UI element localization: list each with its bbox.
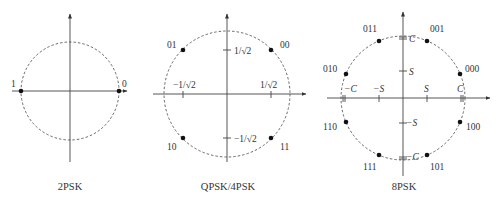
tick-label-x-neg: −1/√2 bbox=[173, 80, 196, 90]
tick-label-x-neg-s: −S bbox=[373, 84, 384, 94]
point-label-10: 10 bbox=[167, 142, 177, 152]
constellation-point-1 bbox=[19, 89, 24, 94]
tick-label-y-neg: −1/√2 bbox=[234, 134, 257, 144]
caption-2psk: 2PSK bbox=[58, 181, 83, 192]
constellation-point-110 bbox=[344, 120, 349, 125]
tick-label-x-c: C bbox=[457, 84, 464, 94]
point-label-010: 010 bbox=[323, 64, 338, 74]
constellation-point-010 bbox=[344, 72, 349, 77]
point-label-11: 11 bbox=[280, 142, 289, 152]
tick-label-x-s: S bbox=[424, 84, 429, 94]
point-label-0: 0 bbox=[122, 79, 127, 89]
tick-label-x-neg-c: −C bbox=[344, 84, 357, 94]
tick-label-y-neg-c: −C bbox=[406, 152, 419, 162]
point-label-01: 01 bbox=[167, 40, 177, 50]
constellation-point-111 bbox=[377, 153, 382, 158]
point-label-111: 111 bbox=[363, 162, 377, 172]
panel-8psk: C S −S −C −C −S S C 000 001 011 010 110 … bbox=[323, 12, 490, 192]
constellation-point-00 bbox=[269, 48, 274, 53]
point-label-100: 100 bbox=[466, 122, 481, 132]
tick-label-y-pos: 1/√2 bbox=[234, 46, 252, 56]
panel-qpsk: 1/√2 −1/√2 −1/√2 1/√2 00 01 10 11 QPSK/4… bbox=[153, 14, 306, 192]
constellation-point-000 bbox=[458, 72, 463, 77]
tick-label-y-s: S bbox=[409, 67, 414, 77]
point-label-1: 1 bbox=[11, 79, 16, 89]
point-label-000: 000 bbox=[465, 64, 480, 74]
constellation-point-011 bbox=[377, 39, 382, 44]
constellation-point-001 bbox=[425, 39, 430, 44]
constellation-point-0 bbox=[117, 89, 122, 94]
constellation-point-01 bbox=[181, 48, 186, 53]
point-label-001: 001 bbox=[430, 24, 445, 34]
constellation-point-10 bbox=[181, 136, 186, 141]
tick-label-y-neg-s: −S bbox=[406, 118, 417, 128]
caption-8psk: 8PSK bbox=[392, 181, 417, 192]
panel-2psk: 1 0 2PSK bbox=[11, 14, 127, 192]
caption-qpsk: QPSK/4PSK bbox=[201, 181, 256, 192]
psk-constellation-figure: 1 0 2PSK 1/√2 −1/√2 −1/√2 1/√2 00 01 10 … bbox=[0, 0, 498, 204]
point-label-110: 110 bbox=[323, 122, 337, 132]
point-label-101: 101 bbox=[430, 162, 445, 172]
constellation-point-101 bbox=[425, 153, 430, 158]
constellation-point-100 bbox=[458, 120, 463, 125]
constellation-point-11 bbox=[269, 136, 274, 141]
point-label-011: 011 bbox=[363, 24, 377, 34]
point-label-00: 00 bbox=[280, 40, 290, 50]
tick-label-y-c: C bbox=[409, 34, 416, 44]
tick-label-x-pos: 1/√2 bbox=[260, 80, 278, 90]
